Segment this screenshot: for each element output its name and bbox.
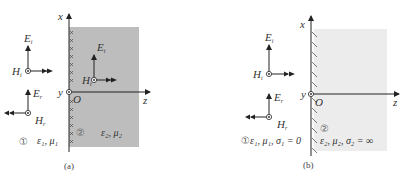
svg-text:O: O xyxy=(73,93,81,105)
x-axis-label: x xyxy=(57,10,63,22)
figure-b: x y z O Ei Hi Er Hr ② ①ε₁, μ₁, σ₁ = 0 ε₂… xyxy=(241,16,399,170)
region2-params: ε₂, μ₂ xyxy=(101,127,122,138)
y-axis-label: y xyxy=(57,86,63,98)
diagram-canvas: x y z O Ei Hi Er Hr xyxy=(0,0,402,180)
svg-text:Ei: Ei xyxy=(23,32,33,45)
region2-marker: ② xyxy=(320,123,329,134)
region2-marker: ② xyxy=(76,127,85,138)
region2-params: ε₂, μ₂, σ₂ = ∞ xyxy=(320,135,373,146)
svg-text:Hi: Hi xyxy=(11,65,22,78)
z-axis-label: z xyxy=(142,94,148,106)
svg-text:Hr: Hr xyxy=(276,118,288,131)
svg-text:(b): (b) xyxy=(303,160,314,170)
svg-text:①: ① xyxy=(19,136,28,147)
reflected-wave-vectors: Er Hr xyxy=(245,91,288,131)
svg-text:x: x xyxy=(299,18,305,30)
region1-params: ε₁, μ₁ xyxy=(37,135,58,146)
svg-text:ε₁, μ₁: ε₁, μ₁ xyxy=(37,135,58,146)
figure-a-caption: (a) xyxy=(64,161,74,171)
region1-params: ε₁, μ₁, σ₁ = 0 xyxy=(250,135,301,146)
origin-label: O xyxy=(315,96,323,108)
svg-text:Hi: Hi xyxy=(252,68,263,81)
region1-marker: ① xyxy=(241,135,250,146)
svg-text:②: ② xyxy=(76,127,85,138)
svg-text:z: z xyxy=(392,96,398,108)
incident-wave-vectors: Ei Hi xyxy=(11,32,53,78)
figure-b-caption: (b) xyxy=(303,160,314,170)
origin-label: O xyxy=(73,93,81,105)
region1-marker: ① xyxy=(19,136,28,147)
svg-text:(a): (a) xyxy=(64,161,74,171)
z-axis-label: z xyxy=(392,96,398,108)
reflected-wave-vectors: Er Hr xyxy=(4,87,46,127)
svg-text:x: x xyxy=(57,10,63,22)
y-axis-label: y xyxy=(300,88,306,100)
svg-text:ε₂, μ₂, σ₂ = ∞: ε₂, μ₂, σ₂ = ∞ xyxy=(320,135,373,146)
svg-text:y: y xyxy=(300,88,306,100)
svg-text:z: z xyxy=(142,94,148,106)
svg-text:Hr: Hr xyxy=(34,114,46,127)
svg-text:Er: Er xyxy=(32,87,43,100)
svg-text:Ei: Ei xyxy=(264,31,274,44)
svg-text:②: ② xyxy=(320,123,329,134)
x-axis-label: x xyxy=(299,18,305,30)
svg-text:y: y xyxy=(57,86,63,98)
incident-wave-vectors: Ei Hi xyxy=(252,31,295,81)
svg-text:ε₂, μ₂: ε₂, μ₂ xyxy=(101,127,122,138)
svg-text:O: O xyxy=(315,96,323,108)
figure-a: x y z O Ei Hi Er Hr xyxy=(4,10,150,171)
svg-text:①ε₁, μ₁, σ₁ = 0: ①ε₁, μ₁, σ₁ = 0 xyxy=(241,135,301,146)
svg-text:Er: Er xyxy=(273,91,284,104)
